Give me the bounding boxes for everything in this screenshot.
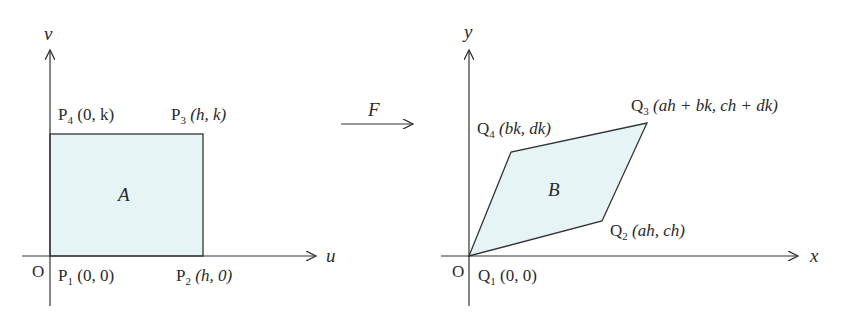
point-q2-label: Q2 (ah, ch) — [610, 222, 685, 242]
point-subscript: 1 — [490, 275, 496, 287]
point-coords: (ah, ch) — [632, 221, 685, 240]
point-coords: (bk, dk) — [499, 119, 551, 138]
origin-label-right: O — [452, 263, 464, 280]
point-p2-label: P2 (h, 0) — [176, 267, 232, 287]
mapping-label: F — [368, 100, 380, 119]
point-q4-label: Q4 (bk, dk) — [477, 120, 551, 140]
point-coords: (0, 0) — [77, 266, 114, 285]
point-p1-label: P1 (0, 0) — [58, 267, 114, 287]
u-axis-label: u — [326, 246, 336, 265]
region-a-label: A — [118, 185, 130, 204]
y-axis-label: y — [464, 22, 472, 41]
point-subscript: 3 — [643, 105, 649, 117]
v-axis-label: v — [44, 24, 52, 43]
point-coords: (h, k) — [190, 105, 226, 124]
point-subscript: 2 — [185, 275, 191, 287]
origin-label-left: O — [32, 263, 44, 280]
point-subscript: 4 — [489, 128, 495, 140]
point-name: Q — [478, 266, 490, 285]
point-p3-label: P3 (h, k) — [171, 106, 226, 126]
point-name: Q — [610, 221, 622, 240]
x-axis-label: x — [810, 246, 818, 265]
point-subscript: 3 — [180, 114, 186, 126]
diagram-canvas — [0, 0, 843, 325]
point-name: Q — [477, 119, 489, 138]
point-q1-label: Q1 (0, 0) — [478, 267, 537, 287]
point-p4-label: P4 (0, k) — [58, 106, 114, 126]
point-subscript: 4 — [67, 114, 73, 126]
point-coords: (h, 0) — [195, 266, 232, 285]
point-coords: (0, k) — [77, 105, 114, 124]
point-coords: (0, 0) — [500, 266, 537, 285]
point-name: Q — [631, 96, 643, 115]
point-subscript: 1 — [67, 275, 73, 287]
point-coords: (ah + bk, ch + dk) — [653, 96, 778, 115]
region-b-label: B — [548, 180, 560, 199]
point-q3-label: Q3 (ah + bk, ch + dk) — [631, 97, 778, 117]
point-subscript: 2 — [622, 230, 628, 242]
